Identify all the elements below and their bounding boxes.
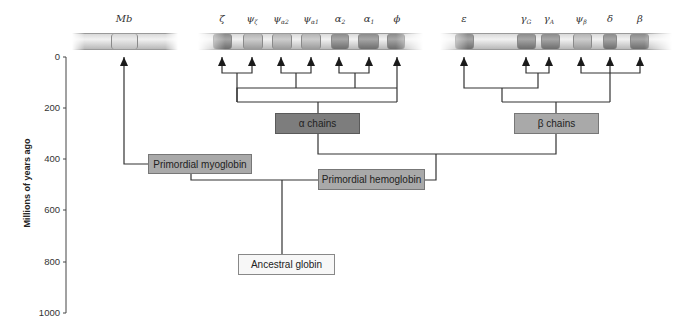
gene-label-psi-zeta: ψζ [246,13,257,25]
gene-mb [111,34,138,49]
gene-label-psi-beta: ψβ [575,13,586,25]
node-beta-chains: β chains [514,113,599,134]
globin-evolution-diagram: Millions of years ago 0 200 400 600 800 … [0,0,677,334]
alpha-globin-chromosome [198,33,423,50]
gene-gamma-a [541,34,560,49]
node-primordial-hemoglobin: Primordial hemoglobin [318,169,425,190]
beta-globin-chromosome [440,33,672,50]
gene-gamma-g [517,34,536,49]
gene-label-zeta: ζ [219,13,224,24]
gene-label-gamma-g: γG [521,13,532,25]
gene-beta [630,34,649,49]
gene-delta [603,34,617,49]
gene-label-beta: β [637,13,643,24]
gene-label-epsilon: ε [461,13,466,24]
gene-label-gamma-a: γA [544,13,554,25]
gene-psi-zeta [243,34,263,49]
gene-label-phi: ϕ [394,13,401,24]
node-ancestral-globin: Ancestral globin [238,254,335,275]
gene-label-mb: Mb [116,13,133,24]
gene-alpha2 [331,34,349,49]
gene-psi-alpha1 [301,34,321,49]
gene-label-delta: δ [607,13,613,24]
gene-phi [387,34,405,49]
gene-psi-beta [573,34,592,49]
gene-psi-alpha2 [272,34,292,49]
gene-zeta [213,34,232,49]
node-alpha-chains: α chains [275,113,360,134]
gene-label-alpha2: α2 [335,13,346,25]
gene-alpha1 [358,34,379,49]
gene-label-alpha1: α1 [364,13,375,25]
gene-label-psi-alpha1: ψα1 [303,13,319,25]
gene-epsilon [455,34,474,49]
node-primordial-myoglobin: Primordial myoglobin [148,154,252,174]
myoglobin-chromosome [72,33,178,50]
gene-label-psi-alpha2: ψα2 [273,13,289,25]
tree-connectors [0,0,677,334]
